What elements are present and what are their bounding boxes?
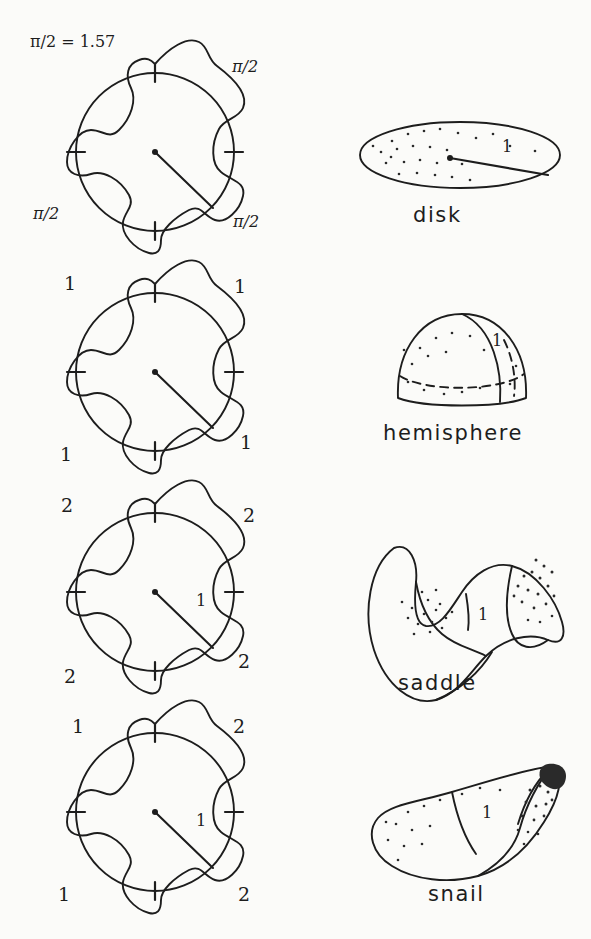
flower-label-top-right: 2 xyxy=(243,504,255,526)
row-saddle: 2 2 2 2 1 xyxy=(61,480,563,701)
snail-radius-label: 1 xyxy=(482,803,492,822)
flower-label-top-left: 2 xyxy=(61,494,73,516)
surface-disk: 1 disk xyxy=(360,122,560,227)
disk-radius-label: 1 xyxy=(502,137,512,156)
saddle-radius-label: 1 xyxy=(478,605,488,624)
flower-center-dot xyxy=(152,809,158,815)
saddle-radius-line xyxy=(466,594,469,630)
row-hemisphere: 1 1 1 1 1 hemisphere xyxy=(60,260,526,473)
snail-outline xyxy=(372,766,559,880)
surface-hemisphere: 1 hemisphere xyxy=(383,314,526,445)
row-disk: π/2 = 1.57 π/2 π/2 π/2 xyxy=(30,32,560,253)
snail-stipple-body xyxy=(385,787,502,862)
hemisphere-meridian xyxy=(462,314,500,402)
flower-label-top-right: 2 xyxy=(233,715,245,737)
hemisphere-radius-label: 1 xyxy=(492,331,502,350)
flower-label-top-left: π/2 = 1.57 xyxy=(30,32,115,51)
snail-radius-line xyxy=(452,792,476,854)
disk-center-dot xyxy=(447,155,453,161)
saddle-fold-right xyxy=(507,566,548,647)
hemisphere-equator-dashed xyxy=(400,374,524,388)
snail-caption: snail xyxy=(428,882,485,906)
disk-radius-line xyxy=(450,158,548,175)
flower-hemisphere xyxy=(67,260,244,473)
flower-label-bottom-left: 1 xyxy=(58,883,70,905)
flower-center-dot xyxy=(152,149,158,155)
snail-shell-tip-dark xyxy=(539,764,566,789)
saddle-fold-left xyxy=(416,582,486,656)
flower-saddle xyxy=(67,480,244,693)
flower-center-dot xyxy=(152,589,158,595)
flower-radius-label: 1 xyxy=(196,811,206,830)
saddle-stipple-left xyxy=(401,589,454,636)
flower-label-bottom-left: 1 xyxy=(60,443,72,465)
flower-label-bottom-left: π/2 xyxy=(32,204,59,223)
flower-label-bottom-right: π/2 xyxy=(232,212,259,231)
flower-radius-line xyxy=(155,372,213,428)
flower-center-dot xyxy=(152,369,158,375)
surface-snail: 1 snail xyxy=(372,764,566,906)
flower-disk xyxy=(67,40,244,253)
flower-label-top-right: π/2 xyxy=(231,57,258,76)
flower-radius-line xyxy=(155,152,213,208)
flower-label-bottom-right: 2 xyxy=(238,883,250,905)
hemisphere-meridian-dashed xyxy=(504,340,515,396)
diagram-sheet: π/2 = 1.57 π/2 π/2 π/2 xyxy=(0,0,591,939)
flower-label-top-left: 1 xyxy=(64,272,76,294)
saddle-caption: saddle xyxy=(398,671,477,695)
row-snail: 1 2 1 2 1 xyxy=(58,700,566,913)
flower-label-bottom-right: 2 xyxy=(238,650,250,672)
disk-caption: disk xyxy=(413,203,462,227)
flower-snail xyxy=(67,700,244,913)
flower-radius-label: 1 xyxy=(196,591,206,610)
flower-label-bottom-right: 1 xyxy=(240,431,252,453)
hemisphere-caption: hemisphere xyxy=(383,421,523,445)
flower-label-top-left: 1 xyxy=(72,715,84,737)
flower-label-bottom-left: 2 xyxy=(64,665,76,687)
disk-outline xyxy=(360,122,560,188)
flower-label-top-right: 1 xyxy=(234,275,246,297)
surface-saddle: 1 saddle xyxy=(368,547,563,701)
